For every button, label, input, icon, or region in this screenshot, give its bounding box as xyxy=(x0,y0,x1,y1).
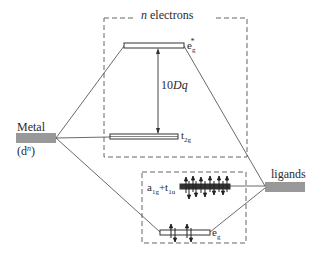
eg-label: eg xyxy=(212,226,221,241)
metal-levels xyxy=(16,134,56,142)
10dq-label: 10Dq xyxy=(161,78,188,92)
mo-diagram: n electrons Metal (dn) ligands eg* xyxy=(0,0,325,257)
splitting-arrow xyxy=(156,48,160,134)
n-electrons-label: n electrons xyxy=(141,8,194,22)
eg-star-level xyxy=(124,43,184,48)
ligands-label: ligands xyxy=(271,167,306,181)
ligand-levels xyxy=(265,183,305,191)
metal-config-label: (dn) xyxy=(17,144,35,158)
a1g-t1u-label: a1g+t1u xyxy=(147,181,176,196)
eg-star-label: eg* xyxy=(187,37,196,54)
metal-label: Metal xyxy=(17,120,46,134)
t2g-label: t2g xyxy=(181,129,192,144)
eg-level xyxy=(160,230,210,235)
